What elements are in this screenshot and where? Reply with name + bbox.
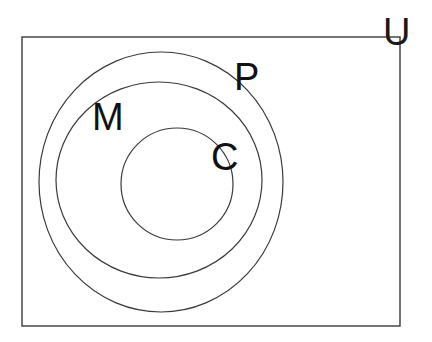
set-label-c: C	[211, 136, 238, 178]
set-label-m: M	[92, 96, 124, 138]
diagram-canvas: U P M C	[0, 0, 432, 342]
set-label-p: P	[234, 56, 259, 98]
set-ellipse-m	[56, 82, 262, 278]
universe-rectangle	[22, 37, 400, 326]
euler-diagram: U P M C	[0, 0, 432, 342]
universe-label: U	[383, 11, 410, 53]
